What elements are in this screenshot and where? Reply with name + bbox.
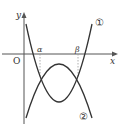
graph-figure: y x O α β ① ②: [0, 0, 122, 134]
origin-label: O: [13, 56, 20, 66]
axes: [2, 16, 116, 124]
alpha-label: α: [37, 45, 43, 54]
beta-label: β: [74, 45, 80, 54]
curve-2-downward-parabola: [26, 64, 92, 118]
guide-lines: [40, 54, 78, 78]
x-axis-label: x: [110, 56, 115, 66]
curve-2-label: ②: [79, 111, 88, 122]
y-axis-label: y: [15, 10, 22, 20]
curve-1-label: ①: [95, 17, 104, 28]
y-axis-arrow-icon: [22, 12, 27, 18]
